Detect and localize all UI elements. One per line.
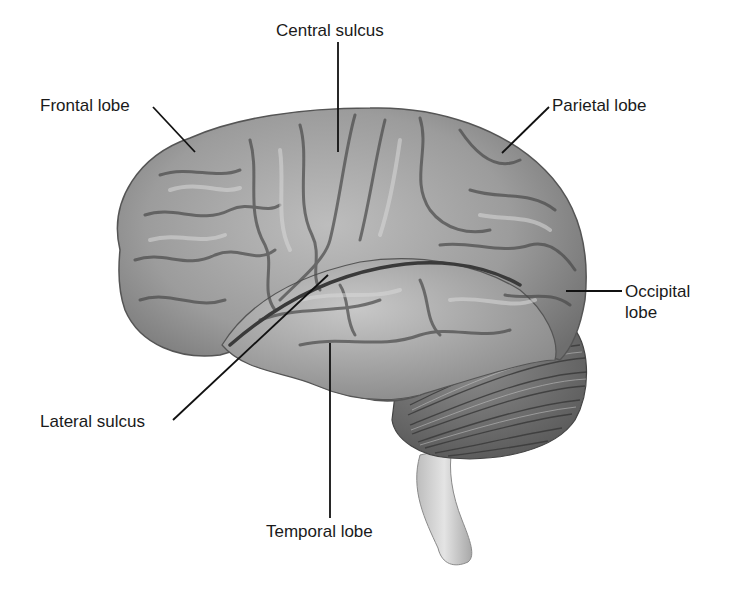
label-parietal-lobe: Parietal lobe: [552, 95, 647, 116]
label-frontal-lobe: Frontal lobe: [40, 95, 130, 116]
label-occipital-lobe-line2: lobe: [625, 302, 657, 323]
label-temporal-lobe: Temporal lobe: [266, 521, 373, 542]
leader-parietal: [502, 107, 549, 153]
brainstem: [417, 448, 472, 565]
label-central-sulcus: Central sulcus: [276, 20, 384, 41]
brain-diagram: Frontal lobe Central sulcus Parietal lob…: [0, 0, 736, 599]
label-occipital-lobe-line1: Occipital: [625, 281, 690, 302]
label-lateral-sulcus: Lateral sulcus: [40, 411, 145, 432]
